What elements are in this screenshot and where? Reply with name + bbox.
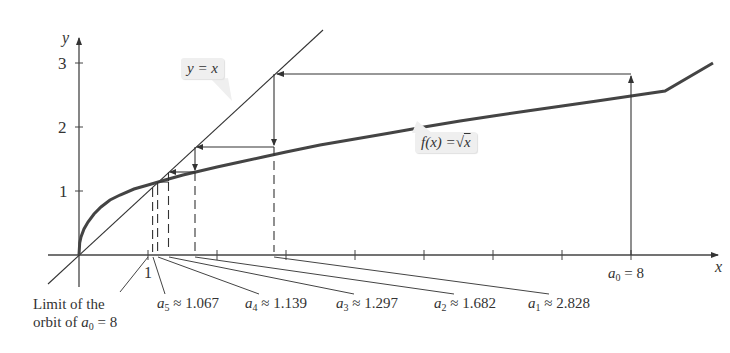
sqrt-label-lhs: f(x) = [421,134,456,150]
sqrt-symbol: √ [456,134,464,150]
identity-line-label: y = x [181,58,224,79]
leader-lines [120,257,549,294]
a4-label: a4 ≈ 1.139 [245,295,307,313]
x-tick-1: 1 [144,264,152,282]
x-axis-label: x [715,258,722,276]
y-axis-label: y [62,29,69,47]
a0-label: a0 = 8 [608,265,644,283]
y-tick-2: 2 [58,118,67,138]
sqrt-curve-label: f(x) =√x [415,132,477,153]
a5-label: a5 ≈ 1.067 [157,295,219,313]
a1-label: a1 ≈ 2.828 [528,295,590,313]
dashed-guides [153,147,274,252]
limit-label: Limit of the orbit of a0 = 8 [33,295,117,336]
sqrt-curve [79,63,713,255]
sqrt-radicand: x [464,134,471,150]
y-tick-1: 1 [59,182,68,202]
a3-label: a3 ≈ 1.297 [336,295,398,313]
y-tick-3: 3 [58,54,67,74]
line-callout-tail [212,78,232,101]
a2-label: a2 ≈ 1.682 [434,295,496,313]
